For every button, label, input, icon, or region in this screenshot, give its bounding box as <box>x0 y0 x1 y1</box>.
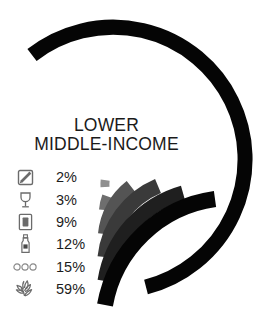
legend-percent: 15% <box>56 259 100 275</box>
legend-percent: 2% <box>56 169 100 185</box>
legend-row: 12% <box>10 233 110 255</box>
legend-percent: 9% <box>56 214 100 230</box>
legend-row: 2% <box>10 166 110 188</box>
legend-percent: 12% <box>56 236 100 252</box>
legend-row: 9% <box>10 211 110 233</box>
legend-percent: 3% <box>56 192 100 208</box>
legend: 2% 3% 9% <box>10 166 110 300</box>
wine-glass-icon <box>10 189 40 211</box>
legend-row: 3% <box>10 188 110 210</box>
radial-infographic: LOWER MIDDLE-INCOME 2% <box>0 0 253 325</box>
legend-percent: 59% <box>56 281 100 297</box>
inhalant-can-icon <box>10 211 40 233</box>
pharmaceutical-bottle-icon <box>10 233 40 255</box>
syringe-square-icon <box>10 166 40 188</box>
pills-row-icon <box>10 256 40 278</box>
legend-row: 15% <box>10 256 110 278</box>
cannabis-leaf-icon <box>10 278 40 300</box>
legend-row: 59% <box>10 278 110 300</box>
